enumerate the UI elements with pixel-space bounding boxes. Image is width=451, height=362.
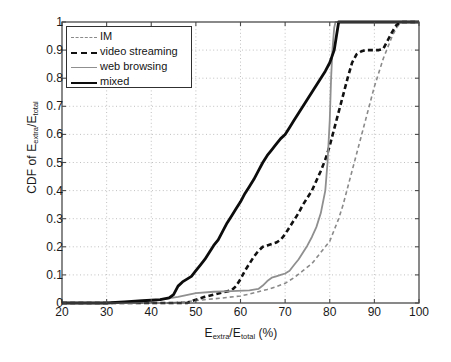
- y-tick-label: 0.6: [46, 127, 63, 141]
- x-tick-label: 80: [323, 305, 336, 319]
- y-tick-label: 0.1: [46, 268, 63, 282]
- x-axis-label-sub1: extra: [213, 332, 230, 341]
- cdf-chart-figure: CDF of Eextra/Etotal Eextra/Etotal (%) 2…: [0, 0, 451, 362]
- y-tick-label: 0.3: [46, 212, 63, 226]
- legend-item-im[interactable]: IM: [71, 29, 191, 44]
- y-tick-label: 0.7: [46, 99, 63, 113]
- x-axis-label: Eextra/Etotal (%): [62, 326, 420, 341]
- x-tick-label: 90: [368, 305, 381, 319]
- x-axis-label-sub2: total: [241, 332, 255, 341]
- legend-line-sample-vs: [71, 46, 97, 58]
- legend-label-im: IM: [100, 31, 112, 42]
- x-tick-label: 100: [409, 305, 429, 319]
- x-tick-label: 30: [100, 305, 113, 319]
- x-tick-label: 50: [189, 305, 202, 319]
- y-axis-label-sub1: extra: [31, 127, 40, 144]
- legend-label-wb: web browsing: [100, 61, 167, 72]
- y-tick-label: 0.2: [46, 240, 63, 254]
- legend-item-mx[interactable]: mixed: [71, 74, 191, 89]
- x-axis-label-tail: (%): [255, 326, 277, 340]
- x-tick-label: 60: [234, 305, 247, 319]
- y-tick-label: 1: [56, 15, 63, 29]
- y-tick-label: 0: [56, 296, 63, 310]
- legend-item-vs[interactable]: video streaming: [71, 44, 191, 59]
- y-axis-label-lead: CDF of E: [25, 144, 39, 194]
- x-tick-label: 40: [145, 305, 158, 319]
- legend-line-sample-im: [71, 31, 97, 43]
- y-axis-label-sub2: total: [31, 101, 40, 115]
- legend-label-vs: video streaming: [100, 46, 178, 57]
- legend-line-sample-mx: [71, 76, 97, 88]
- legend-label-mx: mixed: [100, 76, 129, 87]
- y-tick-label: 0.9: [46, 43, 63, 57]
- x-tick-label: 70: [278, 305, 291, 319]
- chart-legend: IMvideo streamingweb browsingmixed: [66, 26, 192, 88]
- y-axis-label: CDF of Eextra/Etotal: [25, 53, 40, 243]
- legend-line-sample-wb: [71, 61, 97, 73]
- y-tick-label: 0.8: [46, 71, 63, 85]
- y-tick-label: 0.4: [46, 184, 63, 198]
- x-axis-label-mid: /E: [229, 326, 241, 340]
- y-tick-label: 0.5: [46, 156, 63, 170]
- x-axis-label-lead: E: [205, 326, 213, 340]
- y-axis-label-mid: /E: [25, 115, 39, 127]
- legend-item-wb[interactable]: web browsing: [71, 59, 191, 74]
